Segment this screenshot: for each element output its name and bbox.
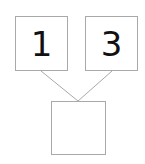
part-box-right[interactable]: 3 [85, 16, 138, 71]
connector-right-to-whole [78, 71, 112, 101]
whole-box[interactable] [51, 101, 106, 155]
number-bond-diagram: 1 3 [0, 0, 145, 164]
part-value-left: 1 [31, 27, 53, 61]
part-box-left[interactable]: 1 [15, 16, 68, 71]
connector-left-to-whole [41, 71, 78, 101]
part-value-right: 3 [101, 27, 123, 61]
